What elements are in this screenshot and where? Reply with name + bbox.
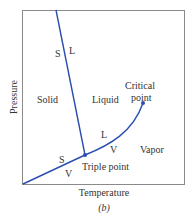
critical-point-label-line1: Critical (125, 80, 155, 91)
sl-liquid-label: L (69, 45, 75, 56)
phase-diagram: S L L V S V Solid Liquid Vapor Critical … (0, 0, 194, 219)
x-axis-label: Temperature (79, 187, 130, 198)
sv-solid-label: S (59, 154, 65, 165)
solid-liquid-boundary (56, 10, 85, 155)
lv-liquid-label: L (101, 129, 107, 140)
sv-vapor-label: V (65, 168, 73, 179)
lv-vapor-label: V (110, 144, 118, 155)
solid-vapor-boundary (23, 155, 85, 184)
triple-point-label: Triple point (82, 161, 129, 172)
region-vapor-label: Vapor (140, 144, 165, 155)
region-liquid-label: Liquid (92, 94, 119, 105)
critical-point-label-line2: point (131, 92, 152, 103)
figure-caption: (b) (98, 202, 110, 214)
region-solid-label: Solid (37, 94, 58, 105)
sl-solid-label: S (55, 48, 61, 59)
triple-point-marker (83, 153, 87, 157)
y-axis-label: Pressure (8, 80, 19, 114)
